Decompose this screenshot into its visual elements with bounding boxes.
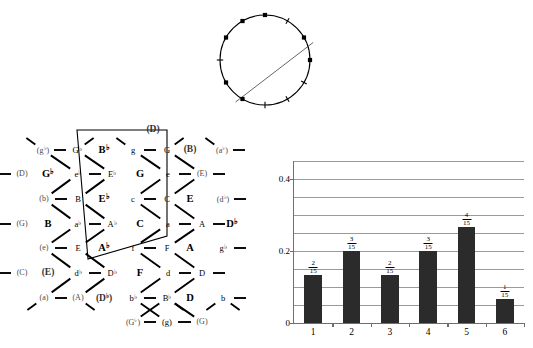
tonnetz-triad-13[interactable]: F [137, 268, 143, 279]
chart-gridline [294, 251, 524, 252]
tonnetz-note-13[interactable]: C [164, 195, 170, 204]
chart-bar-value-label: 115 [500, 284, 509, 299]
tonnetz-note-17[interactable]: A♭ [107, 220, 116, 229]
chromatic-circle-panel [205, 0, 325, 120]
chart-gridline [294, 269, 524, 270]
tonnetz-edge [52, 254, 71, 268]
tonnetz-edge-stub [175, 304, 184, 310]
tonnetz-note-25[interactable]: (C) [17, 269, 28, 277]
tonnetz-edge [52, 180, 71, 194]
tonnetz-edge [86, 254, 105, 268]
tonnetz-note-20[interactable]: (e) [40, 244, 49, 252]
chromatic-circle-svg [205, 0, 325, 120]
tonnetz-note-36[interactable]: (g) [162, 318, 172, 327]
chart-bar-value-label: 215 [385, 260, 394, 275]
tonnetz-note-15[interactable]: (G) [16, 220, 27, 228]
tonnetz-triad-5[interactable]: E♭ [98, 193, 109, 204]
tonnetz-note-18[interactable]: a [166, 220, 170, 229]
tonnetz-triad-12[interactable]: (E) [42, 268, 55, 278]
tonnetz-note-27[interactable]: D♭ [107, 269, 116, 278]
tonnetz-edge [175, 155, 194, 168]
tonnetz-note-10[interactable]: (b) [39, 195, 48, 203]
tonnetz-edge [141, 155, 160, 168]
chart-gridline [294, 179, 524, 180]
tonnetz-note-26[interactable]: d♭ [74, 269, 81, 278]
tonnetz-note-2[interactable]: g [131, 146, 135, 155]
tonnetz-note-29[interactable]: D [199, 269, 205, 278]
tonnetz-note-12[interactable]: c [131, 195, 135, 204]
tonnetz-note-3[interactable]: G [164, 146, 170, 155]
tonnetz-note-1[interactable]: G♭ [72, 146, 81, 155]
tonnetz-note-34[interactable]: b [221, 294, 225, 303]
pitch-class-marker-2[interactable] [302, 35, 306, 39]
pitch-class-marker-0[interactable] [263, 13, 267, 17]
pitch-class-marker-3[interactable] [308, 58, 312, 62]
pitch-class-marker-8[interactable] [224, 80, 228, 84]
tonnetz-note-32[interactable]: b♭ [129, 294, 136, 303]
tonnetz-triad-14[interactable]: (D♭) [96, 292, 112, 303]
chart-bar-2[interactable] [343, 251, 361, 323]
chart-gridline [294, 197, 524, 198]
chart-y-tick [290, 251, 294, 252]
tonnetz-triad-8[interactable]: C [136, 219, 144, 230]
chart-bar-value-label: 315 [424, 236, 433, 251]
tonnetz-note-0[interactable]: (g♭) [37, 145, 49, 154]
tonnetz-note-28[interactable]: d [166, 269, 170, 278]
chart-x-tick-label-1: 1 [311, 327, 316, 337]
tonnetz-note-6[interactable]: e♭ [75, 170, 82, 179]
tonnetz-edge [141, 279, 161, 293]
tonnetz-note-4[interactable]: (a♭) [216, 145, 228, 154]
tonnetz-edge [52, 229, 70, 242]
tonnetz-triad-7[interactable]: B [44, 219, 51, 230]
tonnetz-note-8[interactable]: e [166, 170, 170, 179]
tonnetz-edge [141, 205, 161, 219]
tonnetz-note-37[interactable]: (G) [196, 318, 207, 326]
tonnetz-note-30[interactable]: (a) [40, 294, 49, 302]
tonnetz-triad-2[interactable]: (B) [184, 145, 197, 155]
pitch-class-marker-11[interactable] [240, 19, 244, 23]
chart-gridline [294, 287, 524, 288]
tonnetz-triad-3[interactable]: G♭ [42, 168, 54, 179]
tonnetz-lattice-svg [0, 122, 258, 348]
tonnetz-triad-4[interactable]: G [136, 169, 144, 180]
tonnetz-triad-15[interactable]: D [186, 293, 194, 304]
tonnetz-triad-11[interactable]: A [186, 243, 194, 254]
tonnetz-note-14[interactable]: (d♭) [217, 194, 229, 203]
chart-bar-4[interactable] [419, 251, 437, 323]
chart-x-tick [332, 323, 333, 327]
tonnetz-note-33[interactable]: B♭ [163, 294, 172, 303]
tonnetz-note-7[interactable]: E♭ [108, 170, 116, 179]
chart-bar-3[interactable] [381, 275, 399, 323]
chart-bar-6[interactable] [496, 299, 514, 323]
tonnetz-note-9[interactable]: (E) [197, 170, 207, 178]
tonnetz-note-24[interactable]: g♭ [219, 244, 226, 253]
tonnetz-note-21[interactable]: E [75, 244, 80, 253]
pitch-class-marker-10[interactable] [224, 35, 228, 39]
chart-x-tick [524, 323, 525, 327]
tonnetz-note-22[interactable]: f [132, 244, 135, 253]
tonnetz-edge [86, 229, 104, 242]
tonnetz-note-35[interactable]: (G♭) [126, 317, 140, 326]
tonnetz-note-11[interactable]: B [75, 195, 81, 204]
chart-x-tick-label-3: 3 [387, 327, 392, 337]
chart-x-tick [371, 323, 372, 327]
tonnetz-note-16[interactable]: a♭ [75, 220, 82, 229]
figure-root: (g♭)G♭gG(a♭)(D)e♭E♭e(E)(b)BcC(d♭)(G)a♭A♭… [0, 0, 533, 348]
chart-plot-area: 00.20.4215131522153315441551156 [268, 155, 530, 345]
pitch-class-marker-7[interactable] [240, 97, 244, 101]
tonnetz-triad-0[interactable]: (D) [146, 125, 159, 135]
tonnetz-note-5[interactable]: (D) [16, 170, 27, 178]
tonnetz-triad-1[interactable]: B♭ [98, 144, 109, 155]
tonnetz-triad-9[interactable]: D♭ [226, 218, 238, 229]
tonnetz-edge-stub [27, 304, 36, 310]
tonnetz-triad-6[interactable]: E [186, 194, 193, 205]
tonnetz-edge [86, 205, 105, 219]
chart-x-tick-label-2: 2 [349, 327, 354, 337]
tonnetz-note-23[interactable]: F [165, 244, 170, 253]
tonnetz-triad-10[interactable]: A♭ [98, 242, 110, 253]
chart-bar-5[interactable] [458, 227, 476, 323]
tonnetz-note-19[interactable]: A [199, 220, 205, 229]
chart-bar-1[interactable] [304, 275, 322, 323]
tonnetz-note-31[interactable]: (A) [72, 294, 83, 302]
tonnetz-edge-stub [206, 304, 215, 310]
